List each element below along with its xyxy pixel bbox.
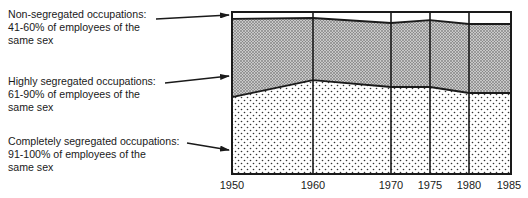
x-tick-1970: 1970 <box>379 179 403 191</box>
x-tick-1985: 1985 <box>497 179 521 191</box>
x-tick-1950: 1950 <box>220 179 244 191</box>
arrow-highly-segregated <box>165 76 229 83</box>
x-tick-1975: 1975 <box>418 179 442 191</box>
stacked-area-chart: 1950 1960 1970 1975 1980 1985 <box>0 0 528 198</box>
x-tick-1980: 1980 <box>457 179 481 191</box>
arrow-completely-segregated <box>187 143 229 150</box>
x-tick-1960: 1960 <box>301 179 325 191</box>
x-axis-ticks: 1950 1960 1970 1975 1980 1985 <box>220 179 521 191</box>
arrow-non-segregated <box>156 15 229 19</box>
